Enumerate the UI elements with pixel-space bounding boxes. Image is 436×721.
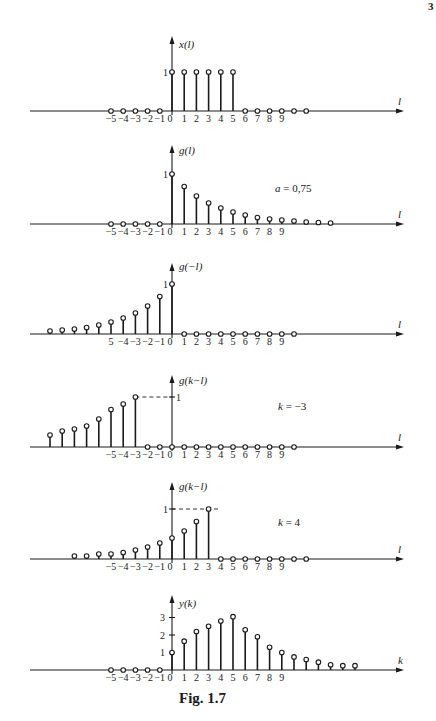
data-point [353, 663, 358, 668]
x-tick-label: 9 [279, 226, 284, 237]
data-point [133, 395, 138, 400]
data-point [109, 668, 114, 673]
y-tick-label: 1 [160, 647, 165, 658]
x-tick-label: 5 [231, 113, 236, 124]
x-tick-label: −4 [118, 672, 129, 683]
x-tick-label: −3 [130, 561, 141, 572]
x-tick-label: 3 [206, 561, 211, 572]
data-point [194, 194, 199, 199]
data-point [341, 663, 346, 668]
x-tick-label: 2 [194, 561, 199, 572]
x-axis-arrow-icon [396, 557, 404, 562]
parameter-annotation: k = −3 [278, 400, 307, 412]
x-tick-label: −5 [106, 113, 117, 124]
x-tick-label: 2 [194, 226, 199, 237]
data-point [267, 645, 272, 650]
x-tick-label: 9 [279, 561, 284, 572]
x-tick-label: 4 [218, 449, 223, 460]
x-tick-label: −2 [142, 336, 153, 347]
x-tick-label: 0 [168, 449, 173, 460]
x-tick-label: 1 [182, 113, 187, 124]
x-tick-label: −1 [154, 561, 165, 572]
data-point [292, 445, 297, 450]
x-tick-label: 0 [168, 113, 173, 124]
x-tick-label: 1 [182, 561, 187, 572]
data-point [231, 210, 236, 215]
x-tick-label: 7 [255, 672, 260, 683]
x-tick-label: 0 [168, 336, 173, 347]
x-tick-label: 8 [267, 672, 272, 683]
data-point [231, 332, 236, 337]
data-point [170, 172, 175, 177]
x-tick-label: 4 [218, 672, 223, 683]
data-point [72, 327, 77, 332]
x-tick-label: 6 [243, 449, 248, 460]
x-tick-label: 1 [182, 226, 187, 237]
data-point [206, 70, 211, 75]
data-point [267, 557, 272, 562]
x-tick-label: 0 [168, 561, 173, 572]
x-tick-label: −2 [142, 113, 153, 124]
x-tick-label: 7 [255, 336, 260, 347]
x-tick-label: 0 [168, 226, 173, 237]
data-point [255, 109, 260, 114]
data-point [60, 429, 65, 434]
x-tick-label: 2 [194, 336, 199, 347]
x-tick-label: −4 [118, 449, 129, 460]
x-tick-label: 3 [206, 336, 211, 347]
y-tick-label: 1 [163, 169, 168, 180]
y-axis-label: g(l) [179, 144, 195, 157]
y-tick-label: 1 [176, 392, 181, 403]
data-point [243, 445, 248, 450]
x-tick-label: −2 [142, 449, 153, 460]
stem-plot-6: y(k)k123−5−4−3−2−10123456789 [30, 595, 404, 683]
data-point [48, 329, 53, 334]
x-tick-label: 3 [206, 113, 211, 124]
data-point [280, 332, 285, 337]
x-tick-label: 9 [279, 672, 284, 683]
x-tick-label: −4 [118, 226, 129, 237]
x-tick-label: −1 [154, 672, 165, 683]
x-tick-label: −2 [142, 561, 153, 572]
data-point [206, 507, 211, 512]
x-tick-label: 8 [267, 113, 272, 124]
data-point [304, 557, 309, 562]
y-axis-arrow-icon [170, 145, 175, 153]
x-tick-label: 5 [231, 336, 236, 347]
y-tick-label: 3 [160, 612, 165, 623]
y-axis-label: g(k−l) [179, 374, 208, 387]
x-tick-label: 5 [231, 561, 236, 572]
data-point [158, 294, 163, 299]
data-point [121, 109, 126, 114]
stem-plot-1: x(l)l1−5−4−3−2−10123456789 [30, 36, 404, 124]
data-point [280, 650, 285, 655]
x-axis-label: l [398, 431, 401, 443]
data-point [133, 668, 138, 673]
data-point [255, 215, 260, 220]
x-axis-label: l [398, 208, 401, 220]
data-point [97, 323, 102, 328]
x-tick-label: 9 [279, 336, 284, 347]
data-point [182, 332, 187, 337]
data-point [255, 634, 260, 639]
data-point [170, 282, 175, 287]
data-point [194, 332, 199, 337]
data-point [109, 320, 114, 325]
x-tick-label: 6 [243, 672, 248, 683]
y-axis-label: x(l) [178, 38, 195, 51]
data-point [170, 70, 175, 75]
x-tick-label: −4 [118, 113, 129, 124]
x-axis-arrow-icon [396, 668, 404, 673]
data-point [182, 445, 187, 450]
data-point [328, 662, 333, 667]
data-point [194, 519, 199, 524]
data-point [72, 427, 77, 432]
data-point [145, 109, 150, 114]
data-point [145, 668, 150, 673]
x-tick-label: 7 [255, 226, 260, 237]
data-point [182, 184, 187, 189]
x-tick-label: 4 [218, 226, 223, 237]
data-point [121, 550, 126, 555]
data-point [206, 332, 211, 337]
data-point [292, 332, 297, 337]
